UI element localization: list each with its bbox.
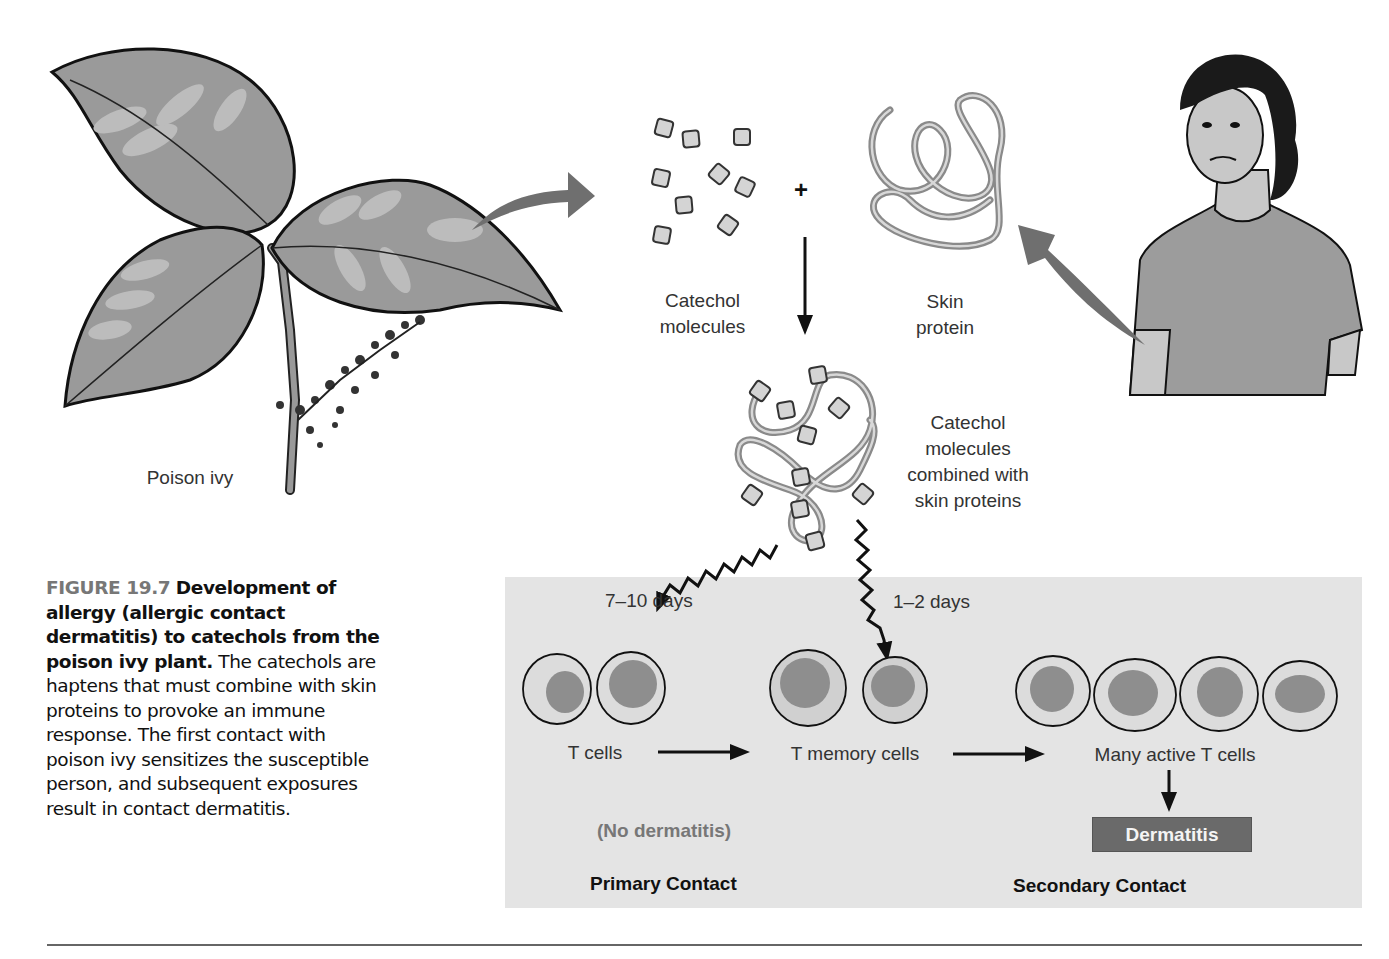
t-memory-cells-label: T memory cells bbox=[775, 741, 935, 767]
t-memory-cells-icon bbox=[770, 650, 927, 726]
dermatitis-box: Dermatitis bbox=[1092, 817, 1252, 852]
combined-complex-label: Catechol molecules combined with skin pr… bbox=[893, 410, 1043, 514]
skin-protein-label: Skin protein bbox=[895, 289, 995, 341]
combined-label-line-2: molecules bbox=[893, 436, 1043, 462]
catechol-molecules-label: Catechol molecules bbox=[640, 288, 765, 340]
catechol-label-line-1: Catechol bbox=[640, 288, 765, 314]
secondary-zigzag-arrow-icon bbox=[856, 520, 886, 652]
many-active-t-cells-label: Many active T cells bbox=[1075, 742, 1275, 768]
catechol-label-line-2: molecules bbox=[640, 314, 765, 340]
t-cells-icon bbox=[523, 652, 665, 724]
figure-number: FIGURE 19.7 bbox=[46, 577, 170, 598]
t-cells-label: T cells bbox=[550, 740, 640, 766]
skin-protein-label-line-2: protein bbox=[895, 315, 995, 341]
secondary-contact-label: Secondary Contact bbox=[1013, 875, 1186, 897]
skin-protein-label-line-1: Skin bbox=[895, 289, 995, 315]
combined-label-line-1: Catechol bbox=[893, 410, 1043, 436]
many-active-t-cells-icon bbox=[1016, 656, 1337, 731]
figure-caption: FIGURE 19.7 Development of allergy (alle… bbox=[46, 576, 386, 821]
secondary-time-label: 1–2 days bbox=[893, 589, 970, 615]
primary-contact-label: Primary Contact bbox=[590, 873, 737, 895]
figure-body: The catechols are haptens that must comb… bbox=[46, 651, 376, 819]
combined-label-line-4: skin proteins bbox=[893, 488, 1043, 514]
primary-time-label: 7–10 days bbox=[605, 588, 693, 614]
plus-sign: + bbox=[794, 176, 808, 204]
bottom-divider bbox=[47, 944, 1362, 946]
combined-label-line-3: combined with bbox=[893, 462, 1043, 488]
no-dermatitis-label: (No dermatitis) bbox=[597, 820, 731, 842]
poison-ivy-label: Poison ivy bbox=[120, 465, 260, 491]
